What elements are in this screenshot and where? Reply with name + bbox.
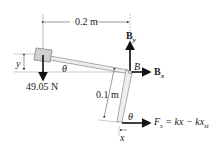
dim-x-label: x bbox=[120, 133, 124, 143]
by-label: By bbox=[126, 31, 136, 44]
theta-bottom-label: θ bbox=[128, 112, 133, 122]
dim-0-1m-label: 0.1 m bbox=[96, 90, 119, 100]
spring-force-label: Fs = kx − kxst bbox=[154, 117, 209, 130]
weight-label: 49.05 N bbox=[26, 82, 58, 92]
dim-y-label: y bbox=[16, 59, 20, 69]
pin-b bbox=[129, 71, 132, 74]
free-body-diagram: 0.2 m y θ 49.05 N B By Bx 0.1 m θ x Fs =… bbox=[0, 0, 221, 154]
dim-0-2m-label: 0.2 m bbox=[75, 17, 98, 27]
diagram-graphics bbox=[0, 0, 221, 154]
pin-b-label: B bbox=[134, 62, 140, 72]
theta-top-label: θ bbox=[62, 64, 67, 74]
bx-label: Bx bbox=[154, 67, 164, 80]
